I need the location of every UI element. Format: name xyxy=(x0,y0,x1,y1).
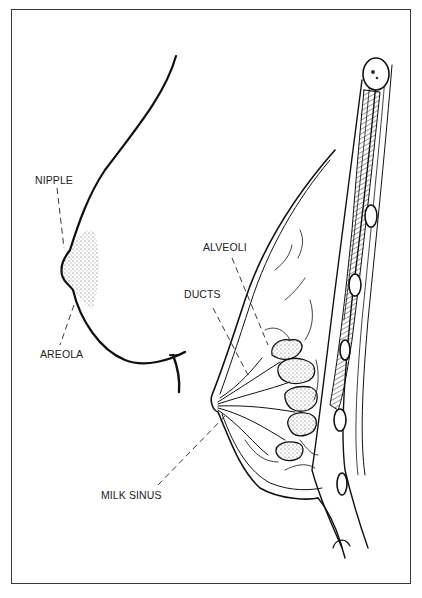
cross-section xyxy=(211,58,392,558)
label-alveoli: ALVEOLI xyxy=(203,241,247,253)
label-milk-sinus: MILK SINUS xyxy=(101,489,162,501)
alveoli-lobules xyxy=(272,340,318,461)
label-ducts: DUCTS xyxy=(184,288,221,300)
label-areola: AREOLA xyxy=(40,348,83,360)
areola-stipple xyxy=(62,231,99,310)
external-profile xyxy=(61,56,185,392)
label-nipple: NIPPLE xyxy=(35,174,73,186)
